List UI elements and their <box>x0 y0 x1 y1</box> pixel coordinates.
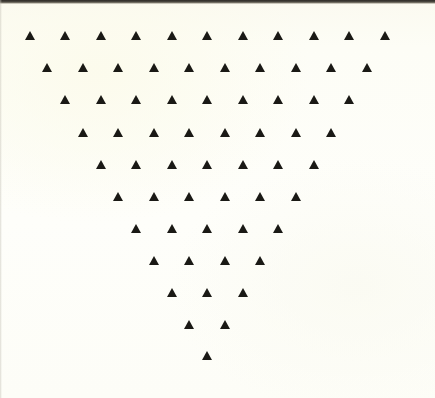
triangle-marker <box>326 128 336 137</box>
triangle-marker <box>202 224 212 233</box>
triangle-marker <box>291 128 301 137</box>
triangle-marker <box>167 95 177 104</box>
triangle-marker <box>131 31 141 40</box>
triangle-marker <box>238 224 248 233</box>
triangle-marker <box>113 128 123 137</box>
triangle-marker <box>184 320 194 329</box>
triangle-marker <box>60 31 70 40</box>
triangle-marker <box>255 256 265 265</box>
triangle-marker <box>220 192 230 201</box>
triangle-marker <box>149 128 159 137</box>
triangle-marker <box>273 224 283 233</box>
triangle-marker <box>291 192 301 201</box>
triangle-marker <box>238 160 248 169</box>
triangle-marker <box>202 160 212 169</box>
triangle-marker <box>42 63 52 72</box>
triangle-marker <box>113 63 123 72</box>
triangle-marker <box>184 192 194 201</box>
triangle-marker <box>202 95 212 104</box>
triangle-marker <box>131 95 141 104</box>
triangle-marker <box>149 256 159 265</box>
triangle-marker <box>273 95 283 104</box>
triangle-marker <box>344 31 354 40</box>
triangle-marker <box>60 95 70 104</box>
triangle-marker <box>149 63 159 72</box>
triangle-marker <box>167 31 177 40</box>
triangle-marker <box>202 351 212 360</box>
triangle-marker <box>220 63 230 72</box>
triangle-marker <box>309 95 319 104</box>
triangle-marker <box>25 31 35 40</box>
triangle-marker <box>167 160 177 169</box>
triangle-marker <box>344 95 354 104</box>
scanned-page <box>0 0 435 398</box>
triangle-marker <box>255 192 265 201</box>
triangle-marker <box>238 288 248 297</box>
triangle-marker <box>131 224 141 233</box>
triangle-marker <box>220 128 230 137</box>
triangle-marker <box>167 224 177 233</box>
triangle-marker <box>202 31 212 40</box>
triangle-marker <box>184 128 194 137</box>
triangle-marker <box>255 63 265 72</box>
triangle-marker <box>380 31 390 40</box>
triangle-marker <box>255 128 265 137</box>
triangle-marker <box>273 31 283 40</box>
triangle-marker <box>78 128 88 137</box>
triangle-marker <box>220 256 230 265</box>
triangle-marker <box>238 95 248 104</box>
triangle-marker <box>273 160 283 169</box>
triangle-marker <box>238 31 248 40</box>
triangle-marker <box>96 160 106 169</box>
triangle-marker <box>184 63 194 72</box>
triangle-marker <box>309 31 319 40</box>
triangle-marker <box>220 320 230 329</box>
triangle-marker <box>96 95 106 104</box>
triangle-marker <box>309 160 319 169</box>
triangle-marker <box>291 63 301 72</box>
triangle-marker <box>149 192 159 201</box>
triangle-marker <box>202 288 212 297</box>
triangle-array <box>0 0 435 398</box>
triangle-marker <box>326 63 336 72</box>
triangle-marker <box>78 63 88 72</box>
triangle-marker <box>113 192 123 201</box>
triangle-marker <box>167 288 177 297</box>
triangle-marker <box>184 256 194 265</box>
triangle-marker <box>131 160 141 169</box>
triangle-marker <box>96 31 106 40</box>
triangle-marker <box>362 63 372 72</box>
